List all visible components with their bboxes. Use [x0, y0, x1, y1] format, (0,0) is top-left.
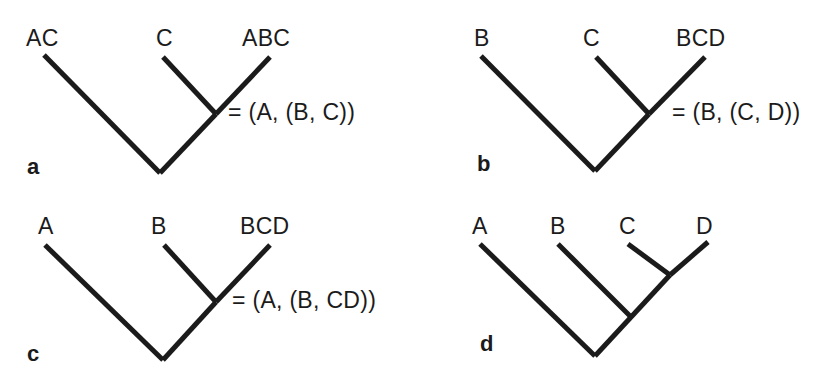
tip-label-b-1: B [474, 27, 490, 50]
tip-label-b-2: C [583, 27, 600, 50]
panel-b: B C BCD = (B, (C, D)) b [420, 0, 833, 190]
tree-a-lines [0, 0, 420, 190]
branch-c-tip2 [164, 245, 216, 302]
tip-label-d-1: A [472, 215, 488, 238]
tip-label-d-4: D [696, 215, 713, 238]
branch-b-tip2 [596, 57, 649, 114]
tip-label-a-2: C [156, 27, 173, 50]
panel-d: A B C D d [420, 190, 833, 376]
branch-c-root-inner [163, 302, 216, 360]
branch-d-spine [595, 275, 670, 356]
branch-d-tipB [558, 244, 630, 316]
tip-label-c-3: BCD [240, 215, 289, 238]
panel-c: A B BCD = (A, (B, CD)) c [0, 190, 420, 376]
branch-a-tip2 [163, 57, 216, 114]
branch-c-tip1 [45, 245, 163, 360]
panel-letter-d: d [480, 333, 493, 355]
branch-a-root-inner [160, 114, 216, 173]
tip-label-b-3: BCD [676, 27, 725, 50]
tip-label-a-1: AC [26, 27, 59, 50]
tip-label-a-3: ABC [242, 27, 290, 50]
branch-b-root-inner [595, 114, 649, 171]
tip-label-c-2: B [151, 215, 167, 238]
figure-canvas: AC C ABC = (A, (B, C)) a B C BCD = (B, (… [0, 0, 833, 376]
branch-a-tip1 [44, 55, 160, 173]
panel-a: AC C ABC = (A, (B, C)) a [0, 0, 420, 190]
tip-label-d-2: B [550, 215, 566, 238]
newick-label-b: = (B, (C, D)) [672, 101, 800, 124]
tip-label-d-3: C [619, 215, 636, 238]
branch-d-tipC [628, 244, 670, 275]
tip-label-c-1: A [38, 215, 54, 238]
branch-d-tipD [670, 242, 708, 275]
panel-letter-b: b [477, 153, 490, 175]
panel-letter-c: c [27, 343, 39, 365]
branch-b-tip1 [481, 56, 595, 171]
panel-letter-a: a [27, 156, 39, 178]
tree-c-lines [0, 190, 420, 376]
newick-label-c: = (A, (B, CD)) [232, 289, 376, 312]
newick-label-a: = (A, (B, C)) [228, 101, 355, 124]
